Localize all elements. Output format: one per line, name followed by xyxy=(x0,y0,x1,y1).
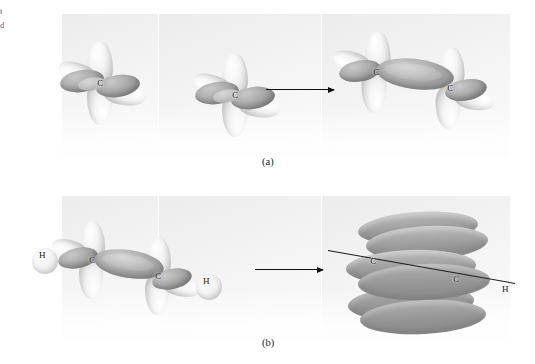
atom-label-carbon: C xyxy=(373,67,379,77)
atom-label-carbon: C xyxy=(97,78,103,88)
acetylene-orbital-skeleton: H C C H xyxy=(20,212,270,332)
atom-label-carbon-right: C xyxy=(453,274,459,284)
atom-label-carbon: C xyxy=(232,90,238,100)
atom-label-hydrogen-left: H xyxy=(39,250,46,260)
panel-label-b: (b) xyxy=(262,337,274,348)
orbital-overlap-figure: t d C C xyxy=(0,0,535,364)
reaction-arrow-b xyxy=(255,269,323,270)
panel-label-a: (a) xyxy=(262,156,274,167)
atom-label-carbon: C xyxy=(447,83,453,93)
margin-text-fragment-2: d xyxy=(0,20,4,30)
carbon-atom-right-a: C xyxy=(175,40,295,150)
atom-label-hydrogen-right: H xyxy=(203,276,210,286)
atom-label-carbon: C xyxy=(155,271,161,281)
atom-label-hydrogen-right: H xyxy=(502,284,509,294)
carbon-atom-left-a: C xyxy=(40,28,160,138)
atom-label-carbon: C xyxy=(89,255,95,265)
acetylene-pi-cloud: C C H xyxy=(332,206,532,334)
reaction-arrow-a xyxy=(266,89,334,90)
atom-label-carbon-left: C xyxy=(370,256,376,266)
carbon-pair-product-a: C C xyxy=(330,20,510,140)
margin-text-fragment-1: t xyxy=(0,6,2,16)
